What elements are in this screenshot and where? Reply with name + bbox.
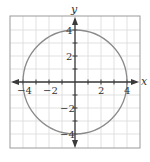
x-tick-label: 4 [124, 85, 130, 96]
x-tick-labels: −4−224 [17, 85, 130, 96]
x-tick-label: −2 [43, 85, 58, 96]
x-axis-right-arrow-icon [131, 79, 139, 85]
y-axis-down-arrow-icon [72, 140, 78, 148]
x-tick-label: 2 [98, 85, 104, 96]
y-tick-label: 2 [66, 51, 72, 62]
coordinate-plane: x y −4−224 42−2−4 [0, 0, 150, 162]
y-tick-label: −2 [60, 103, 75, 114]
x-axis-label: x [141, 75, 148, 88]
y-axis-up-arrow-icon [72, 17, 78, 25]
x-tick-label: −4 [17, 85, 32, 96]
y-tick-label: 4 [66, 25, 72, 36]
y-axis-label: y [70, 3, 78, 16]
y-tick-label: −4 [60, 129, 75, 140]
